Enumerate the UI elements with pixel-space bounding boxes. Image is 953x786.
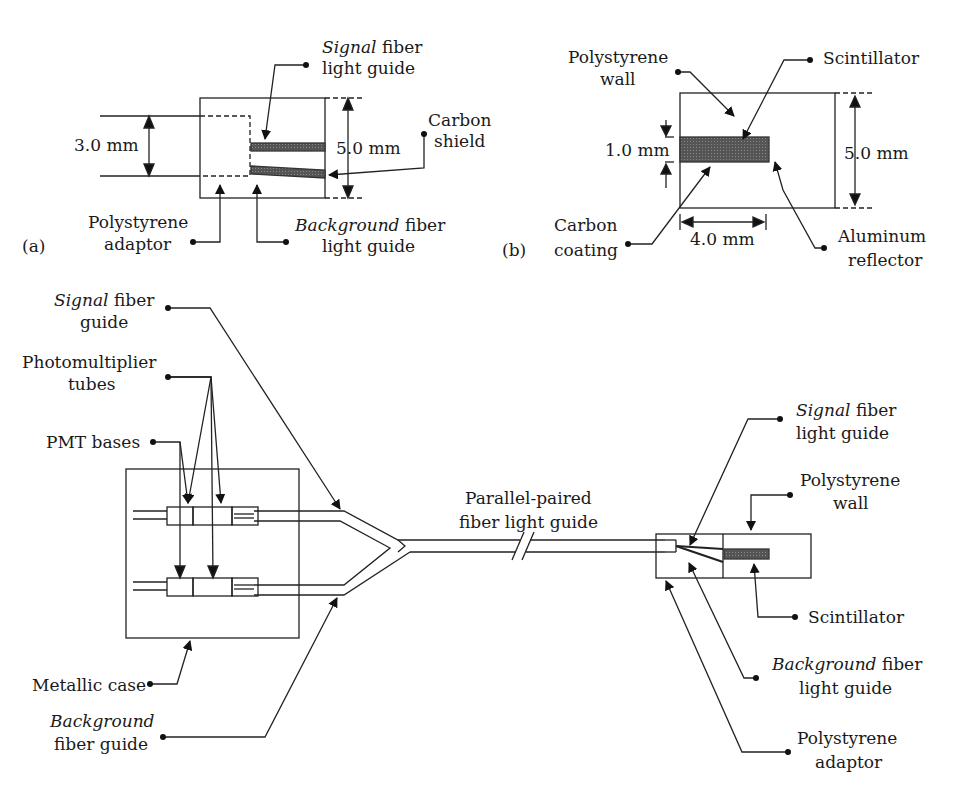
label-carbon-coating: Carbon — [554, 215, 617, 236]
label-probe-background-fiber-line2: light guide — [799, 678, 892, 699]
label-background-fiber-guide-line2: fiber guide — [54, 734, 148, 755]
dimension-5mm-b: 5.0 mm — [844, 143, 909, 164]
label-probe-polystyrene-wall: Polystyrene — [800, 470, 900, 491]
label-photomultiplier-tubes: Photomultiplier — [22, 352, 156, 373]
label-aluminum-reflector: Aluminum — [838, 226, 926, 247]
label-parallel-paired: Parallel-paired — [465, 488, 592, 509]
dimension-4mm: 4.0 mm — [690, 229, 755, 250]
label-probe-background-fiber: Background fiber — [772, 654, 922, 675]
label-pmt-bases: PMT bases — [46, 432, 140, 453]
label-parallel-paired-line2: fiber light guide — [459, 512, 598, 533]
label-a-background-fiber-line2: light guide — [322, 236, 415, 257]
label-a-polystyrene-adaptor-line2: adaptor — [104, 234, 171, 255]
label-photomultiplier-tubes-line2: tubes — [68, 374, 115, 395]
label-b-polystyrene-wall: Polystyrene — [568, 47, 668, 68]
dosimeter-diagram: Signal fiber light guide 3.0 mm 5.0 mm C… — [0, 0, 953, 786]
label-probe-polystyrene-wall-line2: wall — [833, 493, 869, 514]
label-probe-signal-fiber-line2: light guide — [796, 423, 889, 444]
label-a-signal-fiber-line2: light guide — [322, 58, 415, 79]
label-b-polystyrene-wall-line2: wall — [600, 69, 636, 90]
label-metallic-case: Metallic case — [32, 675, 146, 696]
label-b-scintillator: Scintillator — [823, 48, 919, 69]
label-carbon-shield: Carbon — [428, 110, 491, 131]
label-signal-fiber-guide: Signal fiber — [54, 290, 154, 311]
label-probe-polystyrene-adaptor: Polystyrene — [797, 728, 897, 749]
label-a-signal-fiber: Signal fiber — [322, 37, 422, 58]
label-probe-polystyrene-adaptor-line2: adaptor — [815, 752, 882, 773]
label-signal-fiber-guide-line2: guide — [80, 312, 128, 333]
dimension-1mm: 1.0 mm — [605, 140, 670, 161]
dimension-3mm: 3.0 mm — [74, 135, 139, 156]
label-probe-signal-fiber: Signal fiber — [796, 400, 896, 421]
panel-a-tag: (a) — [22, 236, 45, 257]
dimension-5mm-a: 5.0 mm — [336, 138, 401, 159]
panel-b-tag: (b) — [502, 240, 526, 261]
label-carbon-coating-line2: coating — [554, 240, 618, 261]
label-aluminum-reflector-line2: reflector — [848, 250, 922, 271]
label-a-polystyrene-adaptor: Polystyrene — [88, 212, 188, 233]
label-probe-scintillator: Scintillator — [808, 607, 904, 628]
label-carbon-shield-line2: shield — [434, 131, 486, 152]
label-background-fiber-guide: Background — [50, 711, 154, 732]
label-a-background-fiber: Background fiber — [295, 215, 445, 236]
